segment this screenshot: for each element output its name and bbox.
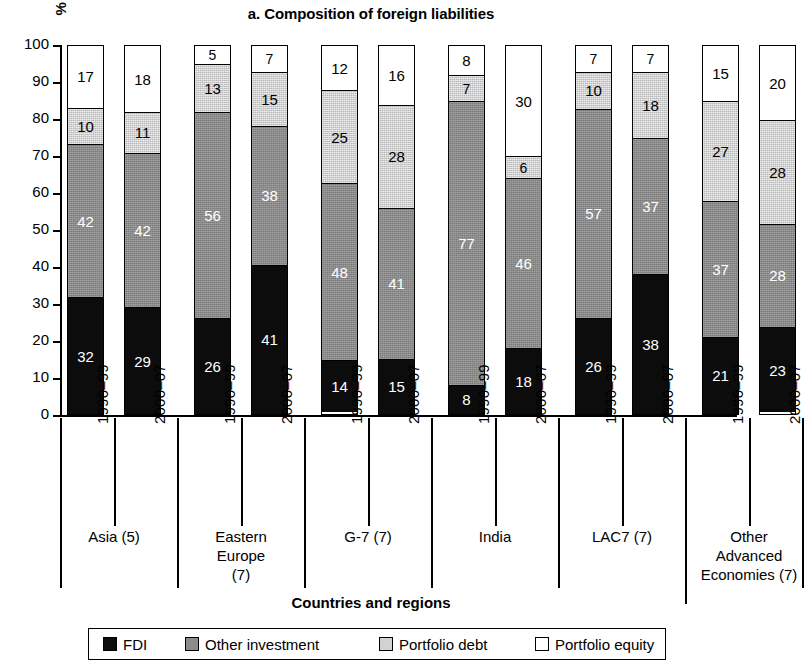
bar-segment-value: 28 [769,165,786,180]
bar-segment-value: 28 [388,149,405,164]
group-label-3: India [425,527,565,546]
bar-segment-equity: 18 [125,46,160,112]
bar-segment-value: 32 [77,349,94,364]
group-separator-4 [558,418,560,588]
legend-item-equity[interactable]: Portfolio equity [535,636,654,653]
y-tick-label-80: 80 [9,109,49,126]
bar-segment-debt: 13 [195,64,230,112]
y-tick-100: 100 [53,45,60,47]
bar-segment-debt: 28 [379,105,414,208]
bar-segment-debt: 25 [322,90,357,183]
bar-segment-value: 26 [585,359,602,374]
bar-segment-value: 30 [515,94,532,109]
bar-segment-value: 15 [261,92,278,107]
bar-segment-other: 28 [760,224,795,328]
group-label-2: G-7 (7) [298,527,438,546]
bar-segment-value: 42 [134,223,151,238]
bar-segment-value: 14 [331,379,348,394]
period-label-3-1: 2000–07 [532,364,549,424]
bar-0-1[interactable]: 18114229 [124,45,161,415]
bar-5-1[interactable]: 20282823 [759,45,796,415]
bar-segment-equity: 8 [449,46,484,75]
y-tick-90: 90 [53,82,60,84]
bar-3-0[interactable]: 87778 [448,45,485,415]
bar-1-0[interactable]: 5135626 [194,45,231,415]
bar-segment-equity: 7 [576,46,611,72]
bar-2-1[interactable]: 16284115 [378,45,415,415]
bar-segment-equity: 12 [322,46,357,90]
bar-5-0[interactable]: 15273721 [702,45,739,415]
bar-segment-other: 41 [379,208,414,359]
bar-segment-value: 37 [642,199,659,214]
y-tick-40: 40 [53,267,60,269]
bar-segment-value: 77 [458,236,475,251]
bar-2-0[interactable]: 12254814 [321,45,358,415]
bar-segment-value: 15 [388,379,405,394]
bar-segment-debt: 10 [68,108,103,144]
bar-segment-debt: 28 [760,120,795,224]
bar-segment-value: 57 [585,206,602,221]
period-label-1-0: 1990–99 [221,364,238,424]
bar-segment-other: 38 [252,126,287,264]
bar-segment-value: 10 [77,119,94,134]
bar-segment-value: 21 [712,368,729,383]
legend-item-other[interactable]: Other investment [185,636,319,653]
bar-segment-other: 42 [125,153,160,308]
bar-segment-value: 18 [642,98,659,113]
bar-segment-debt: 11 [125,112,160,152]
bar-segment-equity: 16 [379,46,414,105]
bar-segment-other: 37 [633,138,668,274]
bar-segment-value: 16 [388,68,405,83]
bar-segment-value: 23 [769,363,786,378]
y-tick-label-100: 100 [9,35,49,52]
bar-segment-value: 10 [585,83,602,98]
pair-separator-5 [749,418,751,526]
bar-segment-value: 7 [463,82,471,96]
bar-segment-value: 25 [331,130,348,145]
bar-segment-other: 77 [449,101,484,384]
bar-segment-value: 7 [266,52,274,66]
bar-1-1[interactable]: 7153841 [251,45,288,415]
bar-segment-value: 20 [769,76,786,91]
legend-item-fdi[interactable]: FDI [103,636,147,653]
period-label-0-1: 2000–07 [151,364,168,424]
pair-separator-4 [622,418,624,526]
group-label-0: Asia (5) [44,527,184,546]
legend-item-debt[interactable]: Portfolio debt [379,636,487,653]
bar-segment-other: 42 [68,144,103,297]
bar-segment-value: 28 [769,268,786,283]
pair-separator-1 [241,418,243,526]
bar-segment-value: 8 [462,392,470,407]
bar-4-0[interactable]: 7105726 [575,45,612,415]
legend-label-other: Other investment [205,636,319,653]
bar-segment-value: 11 [135,125,151,140]
period-label-1-1: 2000–07 [278,364,295,424]
bar-segment-other: 56 [195,112,230,318]
bar-segment-value: 18 [515,374,532,389]
bar-segment-value: 29 [134,354,151,369]
pair-separator-3 [495,418,497,526]
legend-swatch-other [185,637,199,651]
legend-label-fdi: FDI [123,636,147,653]
bar-segment-value: 38 [261,188,278,203]
bar-segment-value: 7 [647,52,655,66]
bar-segment-value: 38 [642,337,659,352]
bar-segment-value: 18 [134,72,151,87]
y-tick-0: 0 [53,415,60,417]
bar-4-1[interactable]: 7183738 [632,45,669,415]
bar-3-1[interactable]: 3064618 [505,45,542,415]
bar-segment-other: 37 [703,201,738,337]
bar-segment-other: 57 [576,109,611,319]
bar-segment-equity: 20 [760,46,795,120]
group-label-4: LAC7 (7) [552,527,692,546]
bar-segment-equity: 30 [506,46,541,156]
period-label-5-0: 1990–99 [729,364,746,424]
period-label-5-1: 2000–07 [786,364,803,424]
bar-segment-value: 5 [209,48,217,62]
bar-segment-debt: 27 [703,101,738,200]
bar-segment-value: 8 [462,53,470,68]
bar-segment-value: 56 [204,208,221,223]
group-separator-0 [60,418,62,588]
bar-0-0[interactable]: 17104232 [67,45,104,415]
